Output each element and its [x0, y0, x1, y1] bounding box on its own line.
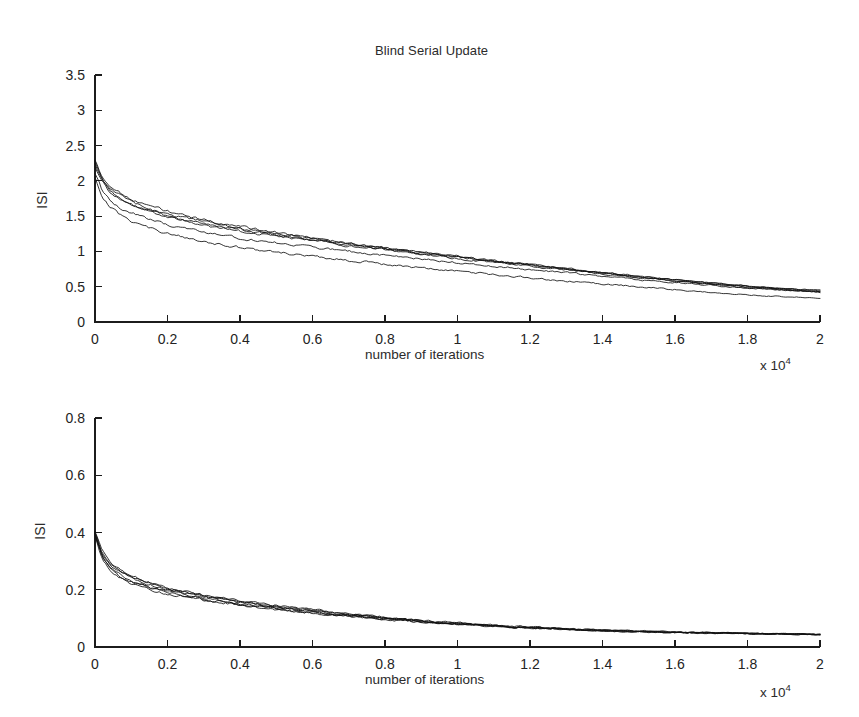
x-tick-label: 0.6: [303, 656, 323, 672]
data-trace: [95, 531, 820, 634]
x-tick-label: 0.8: [375, 656, 395, 672]
x-tick-label: 2: [816, 656, 824, 672]
y-tick-label: 0: [77, 639, 85, 655]
y-tick-label: 0.8: [66, 410, 86, 426]
bottom-plot-area: 00.20.40.60.800.20.40.60.811.21.41.61.82: [0, 0, 859, 717]
x-tick-label: 0.2: [158, 656, 178, 672]
x-tick-label: 1.8: [738, 656, 758, 672]
bottom-x-mult-base: x 10: [760, 685, 786, 700]
data-trace: [95, 533, 820, 635]
bottom-x-axis-label: number of iterations: [365, 672, 484, 687]
data-trace: [95, 532, 820, 634]
y-tick-label: 0.4: [66, 525, 86, 541]
x-tick-label: 0.4: [230, 656, 250, 672]
figure-canvas: Blind Serial Update ISI 00.511.522.533.5…: [0, 0, 859, 717]
x-tick-label: 1.6: [665, 656, 685, 672]
bottom-panel: ISI 00.20.40.60.800.20.40.60.811.21.41.6…: [0, 0, 859, 717]
data-trace: [95, 535, 820, 635]
x-tick-label: 0: [91, 656, 99, 672]
x-tick-label: 1: [454, 656, 462, 672]
x-tick-label: 1.4: [593, 656, 613, 672]
y-tick-label: 0.6: [66, 467, 86, 483]
bottom-x-mult-exponent: 4: [786, 682, 791, 693]
x-tick-label: 1.2: [520, 656, 540, 672]
axis-spines: [95, 418, 820, 647]
data-trace: [95, 534, 820, 635]
data-trace: [95, 534, 820, 636]
bottom-x-axis-multiplier: x 104: [760, 682, 791, 700]
y-tick-label: 0.2: [66, 582, 86, 598]
